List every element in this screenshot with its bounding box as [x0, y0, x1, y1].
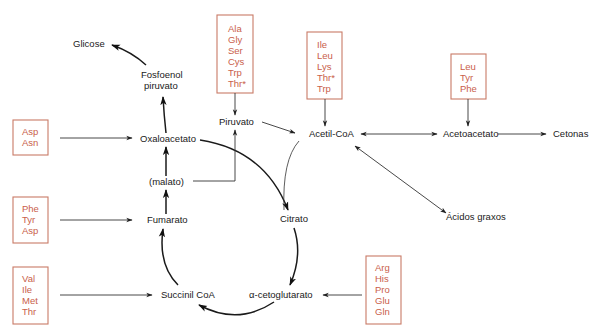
aa-trp: Trp — [317, 83, 331, 94]
aa-box-fumarato: Phe Tyr Asp — [13, 197, 48, 243]
arrow-acetil-acidos-graxos — [355, 146, 446, 213]
arrow-oxaloacetato-to-pep — [163, 97, 166, 133]
arrow-cetoglutarato-to-succinil — [199, 302, 274, 315]
aa-ser: Ser — [228, 45, 243, 56]
aa-box-acetoacetato: Leu Tyr Phe — [451, 54, 486, 99]
aa-thr: Thr — [22, 306, 36, 317]
aa-box-cetoglutarato: Arg His Pro Glu Gln — [366, 256, 401, 324]
aa-box-succinil-coa: Val Ile Met Thr — [13, 267, 48, 324]
label-cetonas: Cetonas — [553, 128, 589, 139]
aa-phe: Phe — [22, 203, 39, 214]
label-fosfoenol: Fosfoenol — [141, 69, 183, 80]
aa-pro: Pro — [375, 284, 390, 295]
label-succinil-coa: Succinil CoA — [161, 289, 216, 300]
label-malato: (malato) — [149, 176, 184, 187]
aa-gln: Gln — [375, 306, 390, 317]
aa-box-oxaloacetato: Asp Asn — [13, 120, 48, 155]
label-glicose: Glicose — [73, 38, 105, 49]
aa-phe: Phe — [460, 83, 477, 94]
label-oxaloacetato: Oxaloacetato — [140, 133, 196, 144]
aa-asn: Asn — [22, 137, 38, 148]
label-acetoacetato: Acetoacetato — [443, 128, 498, 139]
label-acidos-graxos: Ácidos graxos — [446, 211, 506, 222]
aa-thr: Thr* — [228, 78, 246, 89]
metabolic-pathway-diagram: Ala Gly Ser Cys Trp Thr* Ile Leu Lys Thr… — [0, 0, 594, 335]
label-alfa-cetoglutarato: α-cetoglutarato — [249, 289, 313, 300]
arrow-piruvato-to-acetil — [262, 122, 295, 133]
aa-ile: Ile — [317, 39, 327, 50]
aa-leu: Leu — [460, 61, 476, 72]
label-citrato: Citrato — [280, 213, 308, 224]
aa-his: His — [375, 273, 389, 284]
aa-tyr: Tyr — [22, 214, 35, 225]
aa-thr: Thr* — [317, 72, 335, 83]
arrow-succinil-to-fumarato — [162, 229, 178, 285]
label-piruvato-pep: piruvato — [144, 80, 178, 91]
aa-box-piruvato: Ala Gly Ser Cys Trp Thr* — [217, 15, 253, 93]
aa-lys: Lys — [317, 61, 332, 72]
aa-trp: Trp — [228, 67, 242, 78]
aa-cys: Cys — [228, 56, 245, 67]
aa-leu: Leu — [317, 50, 333, 61]
arrow-citrato-to-cetoglutarato — [290, 228, 298, 285]
aa-tyr: Tyr — [460, 72, 473, 83]
label-fumarato: Fumarato — [147, 214, 188, 225]
aa-val: Val — [22, 273, 35, 284]
aa-asp: Asp — [22, 225, 38, 236]
arrow-malato-to-piruvato — [193, 130, 235, 181]
aa-met: Met — [22, 295, 38, 306]
aa-gly: Gly — [228, 34, 243, 45]
arrow-oxaloacetato-to-citrato — [200, 140, 288, 210]
aa-glu: Glu — [375, 295, 390, 306]
aa-box-acetil-coa: Ile Leu Lys Thr* Trp — [307, 32, 342, 99]
aa-arg: Arg — [375, 262, 390, 273]
arrow-pep-to-glicose — [112, 45, 146, 65]
aa-ile: Ile — [22, 284, 32, 295]
aa-ala: Ala — [228, 23, 242, 34]
aa-asp: Asp — [22, 126, 38, 137]
label-acetil-coa: Acetil-CoA — [309, 128, 355, 139]
label-piruvato: Piruvato — [219, 116, 254, 127]
